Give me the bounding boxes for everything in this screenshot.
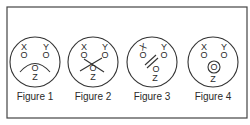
point-y-marker: O bbox=[101, 50, 108, 60]
point-x-marker: O bbox=[80, 50, 87, 60]
figure-1: X O Y O O Z Figure 1 bbox=[10, 37, 60, 102]
point-y-marker: O bbox=[220, 50, 227, 60]
point-x-marker: O bbox=[139, 50, 146, 60]
point-z-label: Z bbox=[152, 73, 158, 83]
figure-4: X O Y O O Z Figure 4 bbox=[188, 37, 238, 102]
point-z-label: Z bbox=[210, 74, 216, 84]
figure-2-caption: Figure 2 bbox=[75, 91, 112, 102]
point-z-label: Z bbox=[32, 72, 38, 82]
figure-2: X O Y O O Z Figure 2 bbox=[68, 37, 118, 102]
point-x-marker: O bbox=[200, 50, 207, 60]
figure-1-caption: Figure 1 bbox=[17, 91, 54, 102]
figure-4-caption: Figure 4 bbox=[195, 91, 232, 102]
point-y-marker: O bbox=[42, 50, 49, 60]
figure-3: X O Y O O Z Figure 3 bbox=[127, 37, 177, 102]
point-y-marker: O bbox=[160, 50, 167, 60]
figure-3-caption: Figure 3 bbox=[134, 91, 171, 102]
point-z-label: Z bbox=[90, 72, 96, 82]
point-z-marker: O bbox=[210, 62, 217, 72]
diagram-canvas: X O Y O O Z Figure 1 X O Y O O Z Figure … bbox=[0, 0, 250, 125]
point-x-marker: O bbox=[20, 50, 27, 60]
